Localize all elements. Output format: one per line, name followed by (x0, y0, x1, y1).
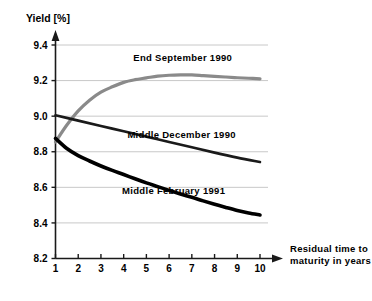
x-axis-title-line2: maturity in years (290, 255, 371, 266)
x-tick-label-9: 9 (234, 263, 240, 274)
y-axis-title: Yield [%] (26, 12, 70, 24)
series-label-middle-december-1990: Middle December 1990 (127, 129, 235, 140)
x-tick-label-6: 6 (166, 263, 172, 274)
x-tick-label-7: 7 (189, 263, 195, 274)
y-tick-label-8.8: 8.8 (34, 146, 48, 157)
x-tick-label-8: 8 (212, 263, 218, 274)
y-tick-label-9.4: 9.4 (34, 40, 48, 51)
y-tick-label-9: 9.0 (34, 111, 48, 122)
x-axis-title-line1: Residual time to (290, 243, 368, 254)
x-tick-label-5: 5 (144, 263, 150, 274)
chart-container: 9.49.29.08.88.68.48.2 12345678910 End Se… (0, 0, 372, 301)
x-tick-label-1: 1 (53, 263, 59, 274)
series-label-middle-february-1991: Middle February 1991 (122, 185, 226, 196)
y-tick-label-9.2: 9.2 (34, 75, 48, 86)
x-tick-label-3: 3 (98, 263, 104, 274)
y-tick-label-8.2: 8.2 (34, 253, 48, 264)
x-tick-label-4: 4 (121, 263, 127, 274)
series-label-end-september-1990: End September 1990 (133, 52, 232, 63)
x-tick-label-2: 2 (75, 263, 81, 274)
x-tick-label-10: 10 (254, 263, 266, 274)
y-tick-label-8.6: 8.6 (34, 182, 48, 193)
yield-curve-chart: 9.49.29.08.88.68.48.2 12345678910 End Se… (0, 0, 372, 301)
y-tick-label-8.4: 8.4 (34, 218, 48, 229)
